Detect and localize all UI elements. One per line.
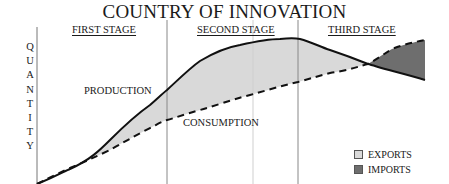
y-axis-letter: N	[25, 83, 35, 97]
stage-label-first: FIRST STAGE	[72, 24, 136, 35]
y-axis-letter: T	[25, 125, 35, 139]
stage-label-third: THIRD STAGE	[328, 24, 396, 35]
y-axis-letter: Y	[25, 139, 35, 153]
y-axis-letter: T	[25, 97, 35, 111]
stage-label-second: SECOND STAGE	[197, 24, 275, 35]
exports-swatch	[354, 150, 363, 159]
y-axis-letter: A	[25, 68, 35, 82]
imports-swatch	[354, 165, 363, 174]
y-axis-letter: U	[25, 54, 35, 68]
y-axis-label: Q U A N T I T Y	[25, 40, 35, 154]
legend: EXPORTS IMPORTS	[354, 147, 412, 177]
legend-label-exports: EXPORTS	[368, 149, 412, 160]
consumption-label: CONSUMPTION	[183, 117, 259, 128]
y-axis-letter: Q	[25, 40, 35, 54]
legend-item-exports: EXPORTS	[354, 147, 412, 162]
legend-item-imports: IMPORTS	[354, 162, 412, 177]
y-axis-letter: I	[25, 111, 35, 125]
production-label: PRODUCTION	[84, 85, 152, 96]
legend-label-imports: IMPORTS	[368, 164, 411, 175]
